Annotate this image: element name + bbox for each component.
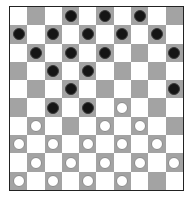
dark-square[interactable] xyxy=(79,62,96,80)
white-piece-icon[interactable] xyxy=(30,120,42,132)
dark-square[interactable] xyxy=(10,62,27,80)
white-piece-icon[interactable] xyxy=(134,157,146,169)
dark-square[interactable] xyxy=(96,117,113,135)
black-piece-icon[interactable] xyxy=(47,28,59,40)
dark-square[interactable] xyxy=(131,80,148,98)
white-piece-icon[interactable] xyxy=(151,138,163,150)
dark-square[interactable] xyxy=(10,98,27,116)
white-piece-icon[interactable] xyxy=(82,138,94,150)
dark-square[interactable] xyxy=(45,62,62,80)
dark-square[interactable] xyxy=(148,62,165,80)
dark-square[interactable] xyxy=(45,172,62,190)
dark-square[interactable] xyxy=(79,135,96,153)
dark-square[interactable] xyxy=(79,25,96,43)
black-piece-icon[interactable] xyxy=(99,10,111,22)
white-piece-icon[interactable] xyxy=(116,138,128,150)
dark-square[interactable] xyxy=(166,117,183,135)
dark-square[interactable] xyxy=(148,25,165,43)
light-square xyxy=(10,153,27,171)
dark-square[interactable] xyxy=(131,117,148,135)
light-square xyxy=(27,25,44,43)
black-piece-icon[interactable] xyxy=(47,65,59,77)
dark-square[interactable] xyxy=(27,117,44,135)
black-piece-icon[interactable] xyxy=(134,10,146,22)
dark-square[interactable] xyxy=(148,135,165,153)
black-piece-icon[interactable] xyxy=(65,10,77,22)
white-piece-icon[interactable] xyxy=(47,175,59,187)
black-piece-icon[interactable] xyxy=(82,102,94,114)
light-square xyxy=(79,80,96,98)
dark-square[interactable] xyxy=(114,98,131,116)
black-piece-icon[interactable] xyxy=(168,47,180,59)
black-piece-icon[interactable] xyxy=(30,47,42,59)
dark-square[interactable] xyxy=(166,7,183,25)
dark-square[interactable] xyxy=(45,135,62,153)
white-piece-icon[interactable] xyxy=(82,175,94,187)
dark-square[interactable] xyxy=(79,98,96,116)
black-piece-icon[interactable] xyxy=(99,47,111,59)
white-piece-icon[interactable] xyxy=(13,138,25,150)
white-piece-icon[interactable] xyxy=(99,157,111,169)
light-square xyxy=(131,172,148,190)
dark-square[interactable] xyxy=(10,135,27,153)
dark-square[interactable] xyxy=(45,25,62,43)
light-square xyxy=(166,135,183,153)
white-piece-icon[interactable] xyxy=(134,120,146,132)
dark-square[interactable] xyxy=(62,153,79,171)
dark-square[interactable] xyxy=(96,7,113,25)
light-square xyxy=(45,44,62,62)
black-piece-icon[interactable] xyxy=(116,28,128,40)
dark-square[interactable] xyxy=(96,80,113,98)
white-piece-icon[interactable] xyxy=(65,157,77,169)
black-piece-icon[interactable] xyxy=(65,47,77,59)
dark-square[interactable] xyxy=(62,44,79,62)
white-piece-icon[interactable] xyxy=(116,102,128,114)
white-piece-icon[interactable] xyxy=(116,175,128,187)
black-piece-icon[interactable] xyxy=(47,102,59,114)
dark-square[interactable] xyxy=(27,7,44,25)
dark-square[interactable] xyxy=(148,172,165,190)
white-piece-icon[interactable] xyxy=(30,157,42,169)
dark-square[interactable] xyxy=(27,153,44,171)
black-piece-icon[interactable] xyxy=(82,28,94,40)
dark-square[interactable] xyxy=(79,172,96,190)
dark-square[interactable] xyxy=(27,44,44,62)
dark-square[interactable] xyxy=(166,80,183,98)
dark-square[interactable] xyxy=(62,7,79,25)
dark-square[interactable] xyxy=(131,7,148,25)
black-piece-icon[interactable] xyxy=(151,28,163,40)
dark-square[interactable] xyxy=(10,172,27,190)
white-piece-icon[interactable] xyxy=(13,175,25,187)
black-piece-icon[interactable] xyxy=(13,28,25,40)
light-square xyxy=(10,7,27,25)
light-square xyxy=(10,80,27,98)
dark-square[interactable] xyxy=(114,62,131,80)
dark-square[interactable] xyxy=(131,44,148,62)
white-piece-icon[interactable] xyxy=(99,120,111,132)
light-square xyxy=(131,98,148,116)
dark-square[interactable] xyxy=(10,25,27,43)
dark-square[interactable] xyxy=(62,80,79,98)
black-piece-icon[interactable] xyxy=(168,83,180,95)
light-square xyxy=(10,117,27,135)
dark-square[interactable] xyxy=(96,153,113,171)
light-square xyxy=(96,25,113,43)
dark-square[interactable] xyxy=(114,25,131,43)
light-square xyxy=(148,44,165,62)
dark-square[interactable] xyxy=(27,80,44,98)
black-piece-icon[interactable] xyxy=(82,65,94,77)
white-piece-icon[interactable] xyxy=(47,138,59,150)
dark-square[interactable] xyxy=(131,153,148,171)
draughts-board xyxy=(9,6,184,191)
dark-square[interactable] xyxy=(45,98,62,116)
dark-square[interactable] xyxy=(114,135,131,153)
dark-square[interactable] xyxy=(166,153,183,171)
dark-square[interactable] xyxy=(114,172,131,190)
dark-square[interactable] xyxy=(62,117,79,135)
black-piece-icon[interactable] xyxy=(65,83,77,95)
dark-square[interactable] xyxy=(96,44,113,62)
dark-square[interactable] xyxy=(166,44,183,62)
light-square xyxy=(27,172,44,190)
dark-square[interactable] xyxy=(148,98,165,116)
white-piece-icon[interactable] xyxy=(168,157,180,169)
